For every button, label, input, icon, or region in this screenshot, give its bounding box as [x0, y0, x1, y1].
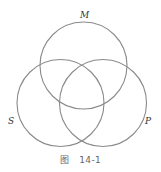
label-p: P	[144, 116, 152, 126]
figure-number: 14-1	[79, 155, 101, 165]
venn-diagram: M S P	[0, 0, 161, 172]
figure-caption: 图14-1	[0, 153, 161, 166]
figure-prefix: 图	[60, 153, 69, 166]
label-s: S	[8, 116, 14, 126]
label-m: M	[79, 10, 90, 20]
circle-p	[60, 60, 147, 147]
